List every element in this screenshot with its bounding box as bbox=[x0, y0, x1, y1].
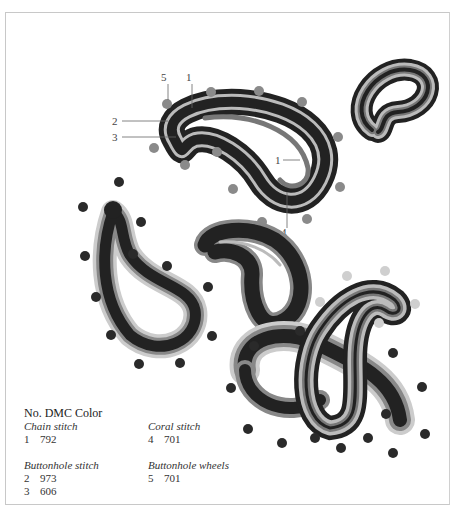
legend-group-title: Buttonhole wheels bbox=[148, 459, 288, 472]
legend-row-color: 701 bbox=[164, 472, 181, 485]
legend-group-chain-stitch: Chain stitch 1792 bbox=[24, 420, 164, 446]
legend-group-title: Buttonhole stitch bbox=[24, 459, 164, 472]
legend-row-color: 701 bbox=[164, 433, 181, 446]
legend-row: 2973 bbox=[24, 472, 164, 485]
legend-row-color: 792 bbox=[40, 433, 57, 446]
legend-row: 1792 bbox=[24, 433, 164, 446]
legend-row-color: 606 bbox=[40, 485, 57, 498]
legend-row-no: 1 bbox=[24, 433, 40, 446]
legend-row-no: 2 bbox=[24, 472, 40, 485]
legend-row-no: 5 bbox=[148, 472, 164, 485]
callout-1-right: 1 bbox=[275, 154, 281, 166]
callout-2: 2 bbox=[112, 115, 118, 127]
legend-row: 5701 bbox=[148, 472, 288, 485]
legend-row-color: 973 bbox=[40, 472, 57, 485]
legend-group-title: Chain stitch bbox=[24, 420, 164, 433]
paisley-middle bbox=[205, 230, 301, 323]
legend-group-coral-stitch: Coral stitch 4701 bbox=[148, 420, 288, 446]
legend-row-no: 3 bbox=[24, 485, 40, 498]
legend-group-buttonhole-wheels: Buttonhole wheels 5701 bbox=[148, 459, 288, 485]
legend-group-title: Coral stitch bbox=[148, 420, 288, 433]
paisley-left bbox=[104, 201, 195, 346]
paisley-top-right bbox=[362, 70, 428, 132]
legend-row: 3606 bbox=[24, 485, 164, 498]
paisley-main bbox=[172, 102, 325, 201]
legend-row-no: 4 bbox=[148, 433, 164, 446]
callout-1-top: 1 bbox=[186, 71, 192, 83]
callout-5: 5 bbox=[161, 71, 167, 83]
legend-header: No. DMC Color bbox=[24, 407, 102, 420]
callout-3: 3 bbox=[112, 131, 118, 143]
legend-row: 4701 bbox=[148, 433, 288, 446]
legend-group-buttonhole-stitch: Buttonhole stitch 2973 3606 bbox=[24, 459, 164, 498]
